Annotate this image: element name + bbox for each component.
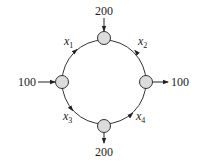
label-x3: x3: [62, 109, 72, 125]
inflow-left: 100: [18, 75, 55, 89]
node-right: [140, 76, 153, 89]
label-x4: x4: [135, 109, 145, 125]
label-x1: x1: [63, 34, 73, 50]
outflow-bottom-label: 200: [95, 145, 113, 159]
label-x2: x2: [137, 34, 147, 50]
outflow-right-label: 100: [171, 75, 189, 89]
outflow-bottom: 200: [95, 131, 113, 159]
network-flow-diagram: 200 100 100 200 x1 x2 x3 x4: [0, 0, 211, 168]
outflow-right: 100: [153, 75, 189, 89]
node-top: [98, 32, 111, 45]
inflow-left-label: 100: [18, 75, 36, 89]
inflow-top-label: 200: [95, 4, 113, 18]
node-left: [56, 76, 69, 89]
inflow-top: 200: [95, 4, 113, 31]
node-bottom: [98, 120, 111, 133]
